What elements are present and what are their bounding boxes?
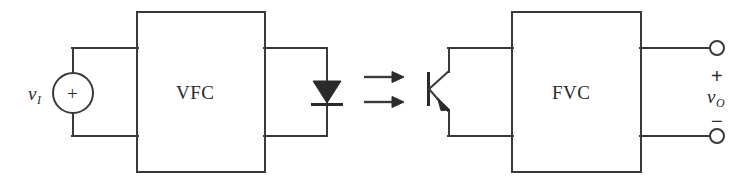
output-terminal-positive[interactable] bbox=[710, 41, 724, 55]
output-minus-label: − bbox=[711, 111, 723, 131]
coupling-arrow-1-head bbox=[392, 72, 404, 83]
led-triangle bbox=[313, 81, 341, 103]
vfc-block-label: VFC bbox=[176, 83, 214, 102]
transistor-collector-lead bbox=[429, 71, 449, 89]
source-polarity-plus: + bbox=[67, 84, 78, 103]
output-plus-label: + bbox=[711, 66, 723, 86]
transistor-emitter-arrow bbox=[438, 98, 451, 111]
input-voltage-label: vI bbox=[28, 84, 40, 103]
figure-canvas: vI + VFC FVC + vO − bbox=[0, 0, 751, 184]
coupling-arrow-2-head bbox=[392, 97, 404, 108]
fvc-block-label: FVC bbox=[552, 83, 590, 102]
output-voltage-label: vO bbox=[707, 87, 724, 106]
circuit-schematic bbox=[0, 0, 751, 184]
